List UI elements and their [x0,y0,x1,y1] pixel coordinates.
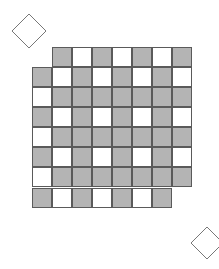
diamond-marker-layer [0,0,219,269]
diamond-bottom-right-icon [191,227,219,259]
diamond-top-left-icon [12,14,46,48]
